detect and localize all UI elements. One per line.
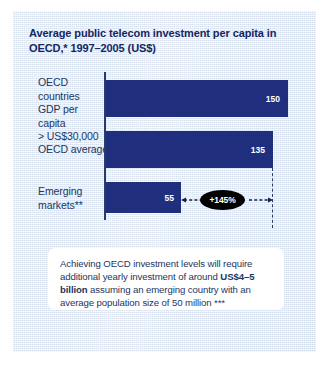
bar-value-emerging-markets: 55 [146, 193, 174, 203]
figure-container: Average public telecom investment per ca… [0, 0, 328, 366]
bar-value-oecd-average: 135 [233, 145, 265, 155]
growth-badge: +145% [200, 190, 245, 210]
category-label-line: OECD average [38, 143, 108, 157]
callout-text: Achieving OECD investment levels will re… [60, 257, 276, 309]
category-label-oecd-high-gdp: OECD countries GDP per capita > US$30,00… [38, 76, 108, 144]
category-label-line: markets** [38, 199, 108, 213]
category-label-line: OECD countries [38, 76, 108, 103]
category-label-line: GDP per capita [38, 103, 108, 130]
category-label-line: > US$30,000 [38, 130, 108, 144]
category-label-emerging-markets: Emerging markets** [38, 185, 108, 212]
chart-title: Average public telecom investment per ca… [29, 26, 287, 56]
bar-value-oecd-high-gdp: 150 [248, 94, 280, 104]
category-label-oecd-average: OECD average [38, 143, 108, 157]
callout-text-part-2: assuming an emerging country with an ave… [60, 284, 251, 308]
callout-box: Achieving OECD investment levels will re… [48, 248, 284, 310]
category-label-line: Emerging [38, 185, 108, 199]
